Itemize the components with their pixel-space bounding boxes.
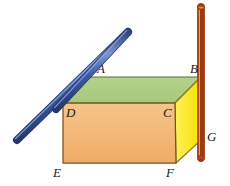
vertex-label-E: E <box>53 166 61 179</box>
prism-face-front <box>63 103 176 163</box>
orange-rod-front-segment <box>198 6 204 159</box>
vertex-label-C: C <box>163 106 172 119</box>
geometry-figure: A B C D E F G <box>0 0 230 186</box>
prism-faces <box>63 77 201 163</box>
vertex-label-B: B <box>190 62 198 75</box>
figure-canvas <box>0 0 230 186</box>
vertex-label-G: G <box>207 130 216 143</box>
vertex-label-A: A <box>97 62 105 75</box>
vertex-label-F: F <box>166 166 174 179</box>
vertex-label-D: D <box>66 106 75 119</box>
